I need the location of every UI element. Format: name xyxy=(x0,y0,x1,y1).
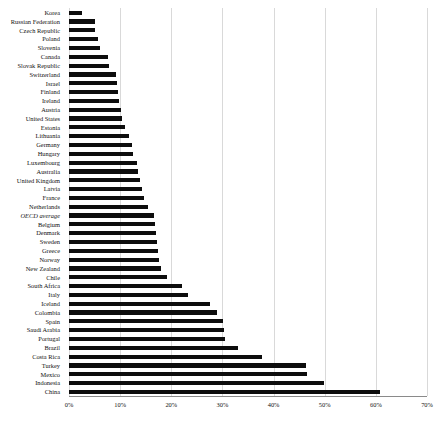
bar xyxy=(69,28,95,32)
bar xyxy=(69,266,161,270)
bar xyxy=(69,99,119,103)
x-axis-baseline xyxy=(69,396,427,397)
bar xyxy=(69,213,154,217)
bar xyxy=(69,363,306,367)
bar xyxy=(69,169,138,173)
bar xyxy=(69,346,238,350)
bar xyxy=(69,328,224,332)
x-tick-label: 0% xyxy=(49,401,89,408)
bar xyxy=(69,240,157,244)
bar xyxy=(69,46,100,50)
x-tick-label: 40% xyxy=(254,401,294,408)
x-tick-label: 50% xyxy=(305,401,345,408)
bar xyxy=(69,11,82,15)
plot-area: KoreaRussian FederationCzech RepublicPol… xyxy=(69,8,427,396)
x-tick-label: 70% xyxy=(407,401,438,408)
bar xyxy=(69,337,225,341)
bar xyxy=(69,178,140,182)
bar xyxy=(69,284,182,288)
bar xyxy=(69,152,133,156)
bar xyxy=(69,161,137,165)
bar xyxy=(69,372,307,376)
bar xyxy=(69,19,95,23)
x-tick-label: 60% xyxy=(356,401,396,408)
bar xyxy=(69,72,116,76)
bar xyxy=(69,293,188,297)
bar xyxy=(69,310,217,314)
bar xyxy=(69,205,148,209)
bar xyxy=(69,319,223,323)
bar xyxy=(69,90,118,94)
x-tick-label: 30% xyxy=(202,401,242,408)
bar xyxy=(69,258,159,262)
bar xyxy=(69,125,125,129)
category-label: China xyxy=(0,387,60,396)
bar xyxy=(69,55,108,59)
bar xyxy=(69,231,156,235)
bar xyxy=(69,390,380,394)
x-tick-label: 20% xyxy=(151,401,191,408)
bar xyxy=(69,355,262,359)
x-tick-label: 10% xyxy=(100,401,140,408)
bar xyxy=(69,37,98,41)
bar xyxy=(69,275,167,279)
bar xyxy=(69,108,121,112)
bar xyxy=(69,81,117,85)
bar xyxy=(69,222,155,226)
bar xyxy=(69,302,210,306)
bar xyxy=(69,143,132,147)
bar xyxy=(69,187,142,191)
bar xyxy=(69,249,158,253)
bar xyxy=(69,116,122,120)
bar xyxy=(69,134,129,138)
bar xyxy=(69,64,109,68)
bar xyxy=(69,381,324,385)
bar xyxy=(69,196,144,200)
